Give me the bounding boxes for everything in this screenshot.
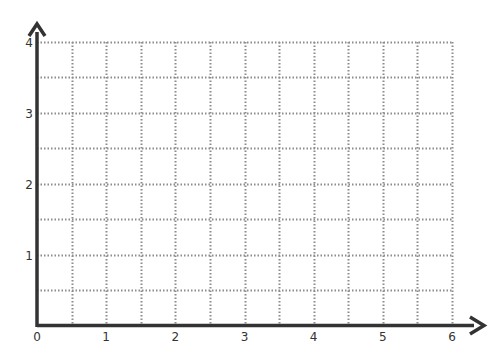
chart-canvas: 01234561234 xyxy=(0,0,502,358)
axes xyxy=(29,24,484,334)
x-tick-label: 1 xyxy=(102,330,110,344)
tick-labels: 01234561234 xyxy=(25,36,455,344)
x-tick-label: 5 xyxy=(379,330,387,344)
y-tick-label: 2 xyxy=(25,178,33,192)
grid-lines xyxy=(37,42,453,326)
x-tick-label: 6 xyxy=(448,330,456,344)
y-tick-label: 4 xyxy=(25,36,33,50)
y-tick-label: 3 xyxy=(25,107,33,121)
y-tick-label: 1 xyxy=(25,249,33,263)
x-tick-label: 0 xyxy=(33,330,41,344)
x-tick-label: 3 xyxy=(241,330,249,344)
x-tick-label: 4 xyxy=(310,330,318,344)
x-tick-label: 2 xyxy=(172,330,180,344)
